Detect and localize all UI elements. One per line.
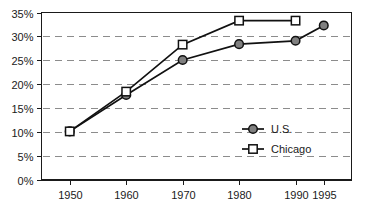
chart-canvas: 0%5%10%15%20%25%30%35% 19501960197019801… [0,0,371,213]
data-point-marker [235,40,244,49]
x-tick-label: 1950 [58,189,82,201]
y-tick-label: 15% [11,103,33,115]
data-point-marker [291,36,300,45]
data-point-marker [319,21,328,30]
x-tick-label: 1960 [114,189,138,201]
y-tick-label: 10% [11,127,33,139]
y-tick-label: 25% [11,55,33,67]
y-tick-label: 35% [11,8,33,20]
y-tick-label: 30% [11,31,33,43]
x-tick-label: 1990 [284,189,308,201]
legend-label: U.S. [271,123,292,135]
legend-label: Chicago [271,143,311,155]
y-tick-label: 5% [18,151,34,163]
data-point-marker [122,87,130,95]
data-point-marker [178,56,187,65]
legend-marker [249,125,258,134]
x-tick-label: 1970 [171,189,195,201]
data-point-marker [235,16,243,24]
data-point-marker [291,16,299,24]
data-point-marker [178,40,186,48]
x-tick-label: 1980 [227,189,251,201]
y-tick-label: 20% [11,79,33,91]
legend-marker [249,145,257,153]
x-tick-label: 1995 [312,189,336,201]
line-chart: 0%5%10%15%20%25%30%35% 19501960197019801… [0,0,371,213]
data-point-marker [66,127,74,135]
y-tick-label: 0% [18,175,34,187]
